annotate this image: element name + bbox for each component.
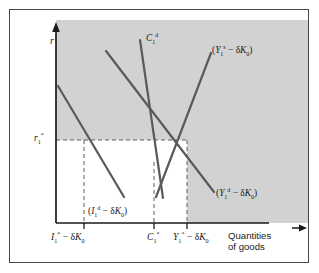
curve-label-desired-consumption: C1d bbox=[146, 34, 158, 43]
y-tick-sub: 1 bbox=[38, 139, 41, 145]
x-tick-label-consumption: C1* bbox=[147, 232, 160, 242]
plot-canvas bbox=[10, 10, 308, 262]
curve-label-output-demand: (Y1d − δK0) bbox=[216, 189, 257, 198]
y-axis-label: r bbox=[50, 36, 54, 46]
x-axis-title-line1: Quantities bbox=[228, 231, 271, 241]
x-axis-title-line2: of goods bbox=[228, 242, 265, 252]
x-axis-arrow-icon bbox=[299, 224, 307, 231]
x-tick-label-output: Y1* − δK0 bbox=[173, 232, 209, 242]
figure-frame: r r1* I1* − δK0 C1* Y1* − δK0 Quantities… bbox=[9, 9, 309, 263]
curve-label-output-supply: (Y1s − δK0) bbox=[212, 46, 252, 55]
y-tick-label-r1: r1* bbox=[34, 133, 44, 143]
curve-label-desired-investment: (I1d − δK0) bbox=[88, 207, 127, 216]
x-tick-label-investment: I1* − δK0 bbox=[51, 232, 85, 242]
y-tick-sup: * bbox=[41, 132, 44, 138]
figure-root: r r1* I1* − δK0 C1* Y1* − δK0 Quantities… bbox=[0, 0, 319, 273]
